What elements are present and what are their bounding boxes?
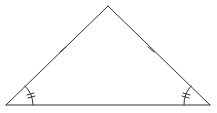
bottom-right-angle-arc — [184, 86, 191, 105]
triangle-diagram — [0, 0, 217, 113]
right-side — [108, 6, 210, 105]
bottom-left-angle-arc — [25, 86, 33, 105]
left-side-tick — [60, 47, 66, 52]
left-side — [6, 6, 108, 105]
